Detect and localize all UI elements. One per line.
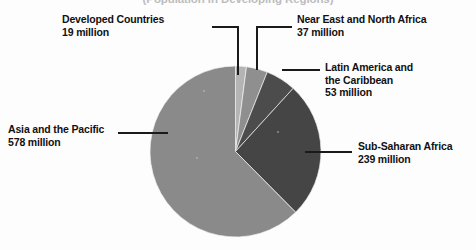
callout-value-sub-saharan: 239 million [358,153,452,166]
pie-slice-group: Developed Countries: 19 millionNear East… [150,66,321,237]
leader-line-near-east [257,27,292,70]
callout-label-developed-countries: Developed Countries [62,13,164,26]
callout-value-near-east: 37 million [297,26,426,39]
callout-sub-saharan-africa: Sub-Saharan Africa 239 million [358,140,452,165]
callout-value-latin-america: 53 million [325,86,413,99]
callout-label-latin-america-line2: the Caribbean [325,74,413,87]
callout-value-developed-countries: 19 million [62,26,164,39]
callout-latin-america-caribbean: Latin America and the Caribbean 53 milli… [325,61,413,99]
pie-chart-figure: (Population in Developing Regions) Devel… [0,0,476,250]
scan-speck [203,90,205,92]
callout-developed-countries: Developed Countries 19 million [62,13,164,38]
callout-label-asia-pacific: Asia and the Pacific [8,123,104,136]
callout-label-near-east: Near East and North Africa [297,13,426,26]
callout-label-sub-saharan: Sub-Saharan Africa [358,140,452,153]
callout-near-east-north-africa: Near East and North Africa 37 million [297,13,426,38]
callout-label-latin-america-line1: Latin America and [325,61,413,74]
scan-speck [277,131,279,133]
scan-speck [196,157,198,159]
callout-asia-pacific: Asia and the Pacific 578 million [8,123,104,148]
callout-value-asia-pacific: 578 million [8,136,104,149]
